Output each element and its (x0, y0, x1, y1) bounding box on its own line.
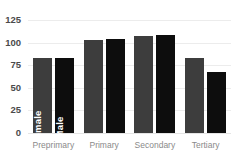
plot-area: 125 100 75 50 25 0 Female Male (28, 20, 231, 133)
bar-groups: Female Male (28, 20, 231, 133)
bar-preprimary-male[interactable]: Male (55, 58, 74, 133)
bar-secondary-male[interactable] (156, 35, 175, 133)
bar-primary-female[interactable] (84, 40, 103, 133)
y-axis-tick-50: 50 (10, 83, 21, 93)
bar-primary-male[interactable] (106, 39, 125, 133)
y-axis-tick-0: 0 (16, 128, 21, 138)
bar-group-secondary (130, 20, 181, 133)
y-axis-tick-100: 100 (5, 38, 21, 48)
x-axis-tick-primary: Primary (79, 136, 130, 156)
bar-secondary-female[interactable] (134, 36, 153, 133)
bar-chart: 125 100 75 50 25 0 Female Male (0, 0, 235, 158)
bar-tertiary-female[interactable] (185, 58, 204, 133)
y-axis-tick-75: 75 (10, 60, 21, 70)
bar-label-male: Male (55, 116, 65, 138)
bar-tertiary-male[interactable] (207, 72, 226, 133)
x-axis-tick-preprimary: Preprimary (28, 136, 79, 156)
x-axis-tick-tertiary: Tertiary (180, 136, 231, 156)
bar-group-tertiary (180, 20, 231, 133)
bar-preprimary-female[interactable]: Female (33, 58, 52, 133)
x-axis-tick-secondary: Secondary (130, 136, 181, 156)
y-axis-tick-125: 125 (5, 15, 21, 25)
y-axis-tick-25: 25 (10, 106, 21, 116)
x-axis: Preprimary Primary Secondary Tertiary (28, 136, 231, 156)
bar-group-preprimary: Female Male (28, 20, 79, 133)
bar-group-primary (79, 20, 130, 133)
